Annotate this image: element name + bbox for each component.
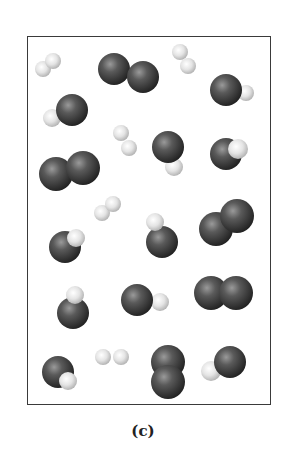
light-atom-icon <box>146 213 164 231</box>
molecule-light-light <box>113 125 137 156</box>
molecule-dark-light <box>43 94 88 127</box>
dark-atom-icon <box>219 276 253 310</box>
molecule-dark-dark <box>199 199 254 246</box>
dark-atom-icon <box>152 131 184 163</box>
molecule-dark-light <box>210 138 248 170</box>
dark-atom-icon <box>127 61 159 93</box>
light-atom-icon <box>67 229 85 247</box>
dark-atom-icon <box>56 94 88 126</box>
molecule-dark-light <box>210 74 254 106</box>
light-atom-icon <box>66 286 84 304</box>
dark-atom-icon <box>98 53 130 85</box>
molecule-dark-dark <box>151 345 185 399</box>
molecule-light-light <box>95 349 129 365</box>
dark-atom-icon <box>151 365 185 399</box>
light-atom-icon <box>95 349 111 365</box>
dark-atom-icon <box>210 74 242 106</box>
dark-atom-icon <box>121 284 153 316</box>
dark-atom-icon <box>66 151 100 185</box>
dark-atom-icon <box>214 346 246 378</box>
molecule-dark-light <box>42 356 77 390</box>
molecule-dark-light <box>146 213 178 258</box>
molecule-light-dark <box>201 346 246 381</box>
light-atom-icon <box>180 58 196 74</box>
molecule-light-dark <box>121 284 169 316</box>
molecule-dark-light <box>152 131 184 176</box>
molecule-light-light <box>35 53 61 77</box>
dark-atom-icon <box>146 226 178 258</box>
molecule-dark-dark <box>39 151 100 191</box>
molecule-dark-dark <box>194 276 253 310</box>
light-atom-icon <box>121 140 137 156</box>
light-atom-icon <box>228 139 248 159</box>
light-atom-icon <box>172 44 188 60</box>
molecule-dark-dark <box>98 53 159 93</box>
light-atom-icon <box>105 196 121 212</box>
molecule-light-light <box>172 44 196 74</box>
dark-atom-icon <box>220 199 254 233</box>
molecule-light-light <box>94 196 121 221</box>
light-atom-icon <box>151 293 169 311</box>
light-atom-icon <box>113 349 129 365</box>
molecule-dark-light <box>57 286 89 329</box>
light-atom-icon <box>113 125 129 141</box>
light-atom-icon <box>45 53 61 69</box>
molecule-scene <box>0 0 286 456</box>
light-atom-icon <box>59 372 77 390</box>
molecule-dark-light <box>49 229 85 263</box>
figure-caption: (c) <box>0 422 286 440</box>
